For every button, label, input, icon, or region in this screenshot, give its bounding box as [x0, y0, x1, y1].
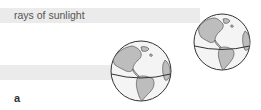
- rays-of-sunlight-label: rays of sunlight: [14, 8, 85, 23]
- panel-label: a: [14, 92, 20, 104]
- globe-icon-lower-center: [110, 40, 172, 102]
- sunlight-ray-band-bottom: [0, 65, 114, 80]
- globe-icon-upper-right: [193, 13, 251, 71]
